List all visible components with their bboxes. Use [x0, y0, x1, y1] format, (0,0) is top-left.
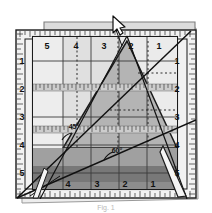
left-scale-label-3: 3 [19, 112, 24, 122]
right-scale-label-5: 5 [174, 168, 179, 178]
bottom-scale-label-3: 3 [94, 179, 99, 189]
top-scale-label-4: 4 [73, 41, 78, 51]
top-scale-label-1: 1 [156, 41, 161, 51]
top-scale-label-5: 5 [44, 41, 49, 51]
right-scale-label-3: 3 [174, 112, 179, 122]
right-scale-label-4: 4 [174, 140, 179, 150]
bottom-scale-label-4: 4 [65, 179, 70, 189]
construction-drawing: 5 4 3 2 1 4 3 2 1 1 2 3 4 5 1 2 3 4 5 45… [0, 0, 212, 213]
top-scale-label-2: 2 [128, 41, 133, 51]
bottom-scale-label-1: 1 [150, 179, 155, 189]
left-scale-label-5: 5 [19, 168, 24, 178]
right-scale-label-1: 1 [174, 56, 179, 66]
left-scale-label-4: 4 [19, 140, 24, 150]
mid-band [33, 148, 177, 166]
bottom-scale-label-2: 2 [122, 179, 127, 189]
angle-60-label: 60° [112, 147, 123, 154]
angle-45-label: 45° [69, 123, 80, 130]
left-scale-label-2: 2 [19, 84, 24, 94]
figure-canvas: 5 4 3 2 1 4 3 2 1 1 2 3 4 5 1 2 3 4 5 45… [0, 0, 212, 213]
figure-caption: Fig. 1 [97, 204, 115, 212]
left-scale-label-1: 1 [19, 56, 24, 66]
top-scale-label-3: 3 [101, 41, 106, 51]
right-scale-label-2: 2 [174, 84, 179, 94]
